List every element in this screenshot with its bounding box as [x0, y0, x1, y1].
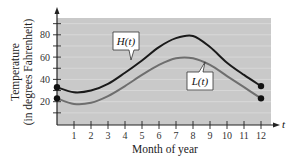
x-tick-label: 12	[256, 130, 266, 141]
chart-figure: t H(t) L(t) 20406080 123456789101112 Mon…	[0, 0, 287, 164]
y-axis-title: Temperature (in degrees Fahrenheit)	[9, 19, 35, 126]
x-tick-label: 11	[239, 130, 249, 141]
series-h-label: H(t)	[116, 35, 136, 48]
svg-text:Temperature: Temperature	[9, 43, 22, 101]
x-tick-label: 9	[208, 130, 213, 141]
svg-text:(in degrees Fahrenheit): (in degrees Fahrenheit)	[22, 19, 35, 126]
x-tick-label: 3	[106, 130, 111, 141]
y-axis-tick-labels: 20406080	[40, 29, 50, 107]
x-axis-variable: t	[282, 118, 286, 130]
x-tick-label: 2	[89, 130, 94, 141]
x-tick-label: 7	[174, 130, 179, 141]
x-axis-tick-labels: 123456789101112	[72, 130, 267, 141]
x-tick-label: 5	[140, 130, 145, 141]
y-tick-label: 60	[40, 52, 50, 63]
y-tick-label: 20	[40, 96, 50, 107]
x-tick-label: 1	[72, 130, 77, 141]
x-tick-label: 8	[191, 130, 196, 141]
x-axis-title: Month of year	[132, 143, 198, 156]
y-tick-label: 40	[40, 74, 50, 85]
x-tick-label: 10	[222, 130, 232, 141]
series-l-label: L(t)	[191, 75, 209, 88]
y-tick-label: 80	[40, 29, 50, 40]
endpoint-dot	[54, 95, 60, 101]
x-axis-arrow-icon	[273, 123, 280, 128]
x-tick-label: 4	[123, 130, 128, 141]
endpoint-dot	[54, 84, 60, 90]
y-axis-arrow-icon	[55, 7, 60, 14]
endpoint-dot	[258, 83, 264, 89]
endpoint-dot	[258, 95, 264, 101]
x-tick-label: 6	[157, 130, 162, 141]
